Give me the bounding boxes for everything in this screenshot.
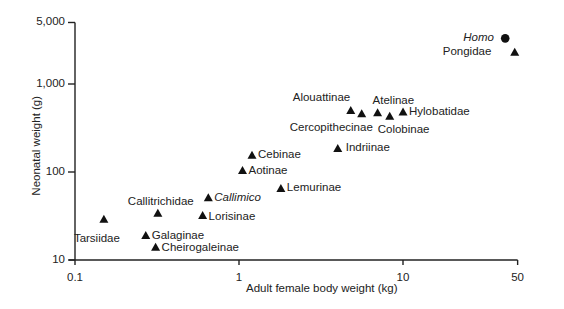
y-tick-label: 1,000 xyxy=(0,78,65,90)
y-tick-label: 10 xyxy=(0,254,65,266)
x-tick-label: 50 xyxy=(498,272,538,284)
data-markers xyxy=(99,34,519,251)
point-label: Indriinae xyxy=(346,142,390,154)
x-axis-title: Adult female body weight (kg) xyxy=(246,283,398,295)
point-label: Cercopithecinae xyxy=(290,122,373,134)
point-label: Hylobatidae xyxy=(409,106,470,118)
triangle-marker xyxy=(346,106,355,114)
point-label: Atelinae xyxy=(373,95,415,107)
point-label: Callitrichidae xyxy=(128,196,194,208)
point-label: Alouattinae xyxy=(293,92,351,104)
point-label: Cebinae xyxy=(258,149,301,161)
triangle-marker xyxy=(204,193,213,201)
point-label: Lorisinae xyxy=(209,211,256,223)
point-label: Colobinae xyxy=(378,124,430,136)
triangle-marker xyxy=(510,48,519,56)
triangle-marker xyxy=(385,112,394,120)
y-axis-title: Neonatal weight (g) xyxy=(31,91,43,201)
triangle-marker xyxy=(141,231,150,239)
triangle-marker xyxy=(238,166,247,174)
point-label: Pongidae xyxy=(443,46,492,58)
triangle-marker xyxy=(357,109,366,117)
triangle-marker xyxy=(333,144,342,152)
triangle-marker xyxy=(99,215,108,223)
triangle-marker xyxy=(151,243,160,251)
triangle-marker xyxy=(153,209,162,217)
point-label: Lemurinae xyxy=(287,182,341,194)
point-label: Homo xyxy=(463,32,494,44)
axes xyxy=(68,22,518,265)
point-label: Tarsiidae xyxy=(74,233,120,245)
point-label: Cheirogaleinae xyxy=(162,242,239,254)
triangle-marker xyxy=(399,108,408,116)
x-tick-label: 0.1 xyxy=(55,272,95,284)
triangle-marker xyxy=(198,211,207,219)
point-label: Aotinae xyxy=(248,165,287,177)
circle-marker xyxy=(501,34,510,43)
triangle-marker xyxy=(373,108,382,116)
point-label: Callimico xyxy=(214,192,261,204)
triangle-marker xyxy=(276,184,285,192)
y-tick-label: 5,000 xyxy=(0,16,65,28)
triangle-marker xyxy=(247,151,256,159)
